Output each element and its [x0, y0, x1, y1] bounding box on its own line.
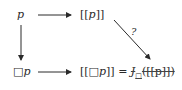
- func-subscript-box: □: [135, 72, 142, 80]
- node-box-p: □p: [13, 66, 30, 78]
- diagonal-label-question: ?: [131, 26, 136, 37]
- bracket-close: ]]: [106, 65, 115, 78]
- var-p: p: [99, 65, 106, 78]
- box-operator: □: [89, 65, 99, 78]
- var-p: p: [89, 8, 96, 21]
- var-p: p: [17, 8, 24, 21]
- struck-j-box-expression: J□([[p]]): [131, 65, 175, 78]
- node-p: p: [17, 9, 24, 21]
- box-operator: □: [13, 65, 23, 78]
- node-denotation-box-p: [[□p]] = J□([[p]]): [80, 66, 175, 82]
- bracket-open: [[: [80, 65, 89, 78]
- var-p: p: [23, 65, 30, 78]
- node-denotation-p: [[p]]: [80, 9, 104, 21]
- equals-sign: =: [118, 65, 127, 78]
- func-argument: ([[p]]): [142, 65, 175, 78]
- bracket-open: [[: [80, 8, 89, 21]
- bracket-close: ]]: [96, 8, 105, 21]
